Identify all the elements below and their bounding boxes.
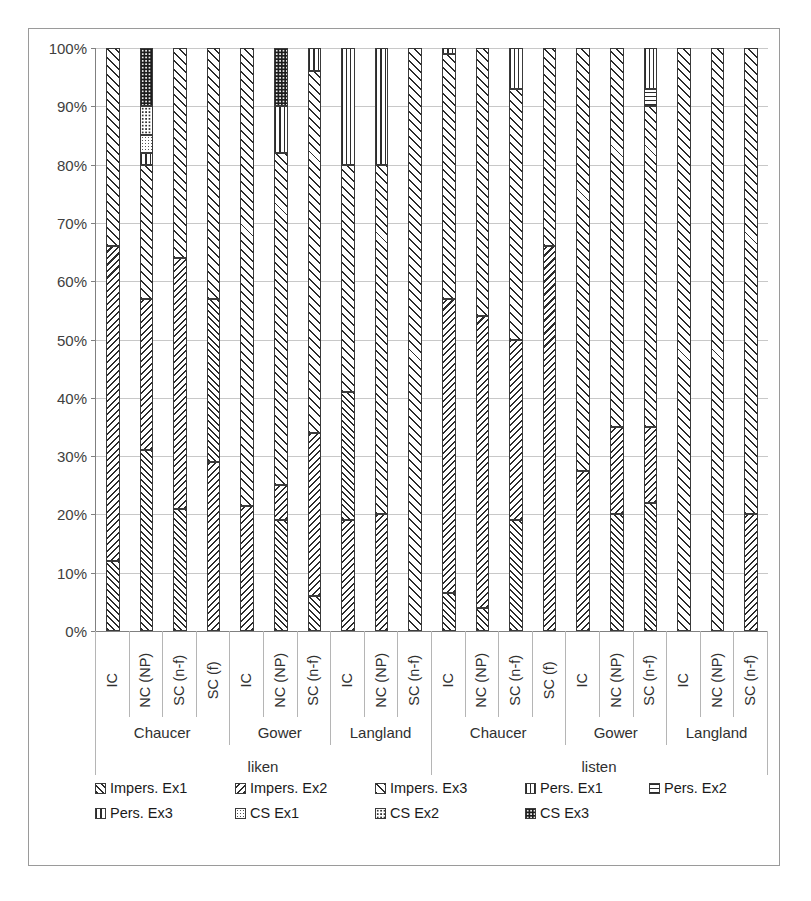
bar-segment[interactable] [576, 471, 589, 631]
bar-segment[interactable] [677, 48, 690, 631]
bar[interactable] [644, 48, 657, 631]
bar[interactable] [173, 48, 186, 631]
bar-segment[interactable] [106, 561, 119, 631]
legend-pers-ex1[interactable]: Pers. Ex1 [525, 781, 603, 796]
bar-segment[interactable] [375, 514, 388, 631]
bar-segment[interactable] [442, 54, 455, 299]
bar-segment[interactable] [644, 427, 657, 503]
legend-impers-ex3[interactable]: Impers. Ex3 [375, 781, 467, 796]
bar-segment[interactable] [476, 608, 489, 631]
bar-segment[interactable] [744, 48, 757, 514]
bar-segment[interactable] [341, 165, 354, 392]
bar-segment[interactable] [644, 48, 657, 89]
bar-segment[interactable] [140, 450, 153, 631]
bar[interactable] [308, 48, 321, 631]
x-axis-category-label: SC (f) [205, 661, 220, 699]
bar[interactable] [509, 48, 522, 631]
bar-segment[interactable] [744, 514, 757, 631]
bar[interactable] [476, 48, 489, 631]
bar[interactable] [744, 48, 757, 631]
bar[interactable] [140, 48, 153, 631]
bar-segment[interactable] [408, 48, 421, 631]
bar-segment[interactable] [610, 427, 623, 514]
bar-segment[interactable] [509, 48, 522, 89]
bar-segment[interactable] [308, 71, 321, 432]
legend-swatch-icon [95, 808, 106, 819]
bar-segment[interactable] [576, 48, 589, 471]
legend-label: CS Ex2 [390, 806, 439, 821]
bar-segment[interactable] [140, 165, 153, 299]
bar-segment[interactable] [308, 48, 321, 71]
x-axis-separator [498, 631, 499, 717]
bar[interactable] [408, 48, 421, 631]
bar-segment[interactable] [106, 48, 119, 246]
legend-cs-ex2[interactable]: CS Ex2 [375, 806, 439, 821]
x-axis-separator [666, 631, 667, 717]
bar-segment[interactable] [509, 520, 522, 631]
bar-segment[interactable] [106, 246, 119, 561]
bar[interactable] [442, 48, 455, 631]
bar-segment[interactable] [644, 89, 657, 106]
bar-segment[interactable] [140, 48, 153, 106]
legend-impers-ex1[interactable]: Impers. Ex1 [95, 781, 187, 796]
x-axis-separator [532, 631, 533, 717]
bar-segment[interactable] [476, 48, 489, 316]
bar-segment[interactable] [274, 485, 287, 520]
bar-segment[interactable] [140, 106, 153, 135]
bar-segment[interactable] [207, 48, 220, 299]
bar-segment[interactable] [509, 340, 522, 521]
bar-segment[interactable] [140, 135, 153, 152]
bar-segment[interactable] [543, 48, 556, 246]
bar-segment[interactable] [140, 299, 153, 451]
bar-segment[interactable] [240, 48, 253, 506]
bar[interactable] [341, 48, 354, 631]
legend-cs-ex3[interactable]: CS Ex3 [525, 806, 589, 821]
bar-segment[interactable] [610, 514, 623, 631]
bar-segment[interactable] [173, 258, 186, 509]
bar-segment[interactable] [711, 48, 724, 631]
bar-segment[interactable] [274, 153, 287, 485]
bar-segment[interactable] [240, 506, 253, 631]
bar[interactable] [576, 48, 589, 631]
bar-segment[interactable] [274, 520, 287, 631]
bar-segment[interactable] [341, 520, 354, 631]
bar[interactable] [240, 48, 253, 631]
bar-segment[interactable] [610, 48, 623, 427]
bar[interactable] [274, 48, 287, 631]
bar-segment[interactable] [644, 503, 657, 631]
bar-segment[interactable] [341, 392, 354, 520]
legend-label: Pers. Ex3 [110, 806, 173, 821]
bar-segment[interactable] [442, 299, 455, 593]
legend-cs-ex1[interactable]: CS Ex1 [235, 806, 299, 821]
bar-segment[interactable] [308, 433, 321, 596]
bar-segment[interactable] [476, 316, 489, 608]
bar[interactable] [375, 48, 388, 631]
y-axis-label: 0% [65, 624, 87, 639]
bar-segment[interactable] [341, 48, 354, 165]
bar-segment[interactable] [509, 89, 522, 340]
bar-segment[interactable] [274, 48, 287, 106]
bar[interactable] [543, 48, 556, 631]
legend-pers-ex3[interactable]: Pers. Ex3 [95, 806, 173, 821]
bar-segment[interactable] [207, 299, 220, 462]
bar[interactable] [207, 48, 220, 631]
bar-segment[interactable] [543, 246, 556, 631]
bar-segment[interactable] [644, 106, 657, 427]
bar[interactable] [106, 48, 119, 631]
bar-segment[interactable] [442, 593, 455, 631]
bar[interactable] [711, 48, 724, 631]
bar-segment[interactable] [442, 48, 455, 54]
bar-segment[interactable] [274, 106, 287, 153]
bar-segment[interactable] [173, 48, 186, 258]
x-tick-cell: IC [431, 631, 465, 715]
bar-segment[interactable] [308, 596, 321, 631]
bar-segment[interactable] [140, 153, 153, 165]
bar-segment[interactable] [207, 462, 220, 631]
bar-segment[interactable] [375, 165, 388, 515]
bar[interactable] [610, 48, 623, 631]
legend-pers-ex2[interactable]: Pers. Ex2 [649, 781, 727, 796]
bar[interactable] [677, 48, 690, 631]
legend-impers-ex2[interactable]: Impers. Ex2 [235, 781, 327, 796]
bar-segment[interactable] [375, 48, 388, 165]
bar-segment[interactable] [173, 509, 186, 631]
